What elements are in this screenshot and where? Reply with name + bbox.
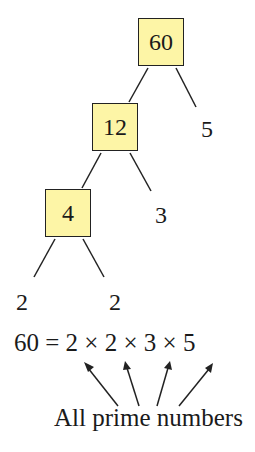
node-12-box: 12 (92, 103, 138, 151)
leaf-2-left: 2 (16, 290, 28, 314)
node-60-box: 60 (138, 18, 184, 66)
edge-60-5 (176, 68, 196, 107)
edge-60-12 (129, 68, 148, 102)
tree-lines (0, 0, 255, 452)
factorization-equation: 60 = 2 × 2 × 3 × 5 (14, 329, 195, 357)
node-60-label: 60 (149, 29, 173, 56)
leaf-3: 3 (155, 203, 167, 227)
caption-all-primes: All prime numbers (54, 404, 243, 432)
node-4-label: 4 (62, 200, 74, 227)
edge-4-2-left (34, 239, 55, 277)
leaf-2-right: 2 (109, 290, 121, 314)
prime-arrows (84, 361, 213, 406)
edge-4-2-right (83, 239, 104, 277)
leaf-5: 5 (201, 117, 213, 141)
edge-12-3 (130, 153, 151, 191)
node-4-box: 4 (45, 189, 91, 237)
edge-12-4 (82, 153, 101, 188)
node-12-label: 12 (103, 114, 127, 141)
